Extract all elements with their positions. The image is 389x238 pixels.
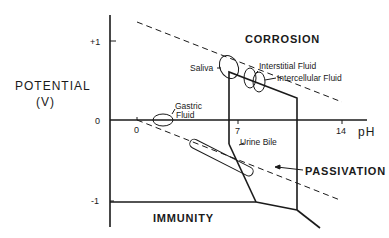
urine-bile-label: Urine Bile	[240, 137, 277, 147]
y-tick-label-plus1: +1	[90, 37, 100, 47]
y-tick-label-0: 0	[95, 116, 100, 126]
y-axis-title-line1: POTENTIAL	[15, 79, 91, 93]
corrosion-label: CORROSION	[245, 33, 320, 45]
x-tick-label-7: 7	[235, 126, 240, 136]
gastric-label-line2: Fluid	[176, 110, 195, 120]
y-axis-title-line2: (V)	[36, 95, 55, 109]
immunity-boundary-tail	[297, 210, 320, 228]
pourbaix-diagram: POTENTIAL (V) +1 0 -1 0 7 14 pH CORROSIO…	[0, 0, 389, 238]
passivation-label: PASSIVATION	[305, 165, 386, 177]
saliva-label: Saliva	[190, 63, 213, 73]
immunity-boundary-lower	[256, 202, 297, 210]
x-tick-label-0: 0	[134, 125, 139, 135]
immunity-label: IMMUNITY	[153, 212, 214, 224]
interstitial-label: Interstitial Fluid	[259, 61, 316, 71]
x-tick-label-14: 14	[336, 126, 346, 136]
x-axis-title: pH	[358, 125, 375, 139]
y-tick-label-minus1: -1	[91, 196, 99, 206]
intercellular-label: Intercellular Fluid	[277, 73, 342, 83]
passivation-arrow-line	[277, 167, 303, 170]
labels: POTENTIAL (V) +1 0 -1 0 7 14 pH CORROSIO…	[15, 33, 386, 224]
passivation-arrowhead	[275, 165, 280, 169]
intercellular-leader	[265, 78, 276, 80]
region-boundaries	[110, 72, 320, 228]
